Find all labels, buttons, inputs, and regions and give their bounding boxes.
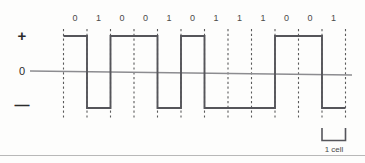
figure-background	[0, 0, 365, 163]
bit-label: 1	[213, 13, 218, 23]
cell-bracket-label: 1 cell	[325, 145, 344, 154]
bit-label: 0	[190, 13, 195, 23]
bit-label: 0	[284, 13, 289, 23]
bit-label: 0	[143, 13, 148, 23]
bit-label: 1	[96, 13, 101, 23]
zero-level-label: 0	[19, 65, 25, 77]
signal-diagram-svg: 0 1 0 0 1 0 1 1 1 0 0 1 + 0 — 1 cell	[0, 0, 365, 163]
positive-level-label: +	[18, 27, 27, 44]
nrz-signal-figure: 0 1 0 0 1 0 1 1 1 0 0 1 + 0 — 1 cell	[0, 0, 365, 163]
bit-label: 0	[307, 13, 312, 23]
bit-label: 0	[72, 13, 77, 23]
bit-label: 1	[331, 13, 336, 23]
negative-level-label: —	[15, 96, 30, 113]
bit-label: 1	[237, 13, 242, 23]
bit-label: 1	[260, 13, 265, 23]
bit-label: 1	[166, 13, 171, 23]
bit-label: 0	[119, 13, 124, 23]
